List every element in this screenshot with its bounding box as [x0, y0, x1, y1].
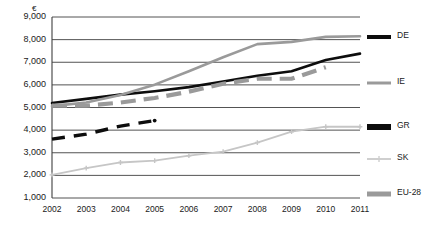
y-axis-tick-label: 7,000	[6, 57, 46, 66]
x-axis-tick-label: 2002	[35, 204, 69, 214]
y-axis-tick-label: 2,000	[6, 170, 46, 179]
legend-label-ie: IE	[397, 76, 405, 86]
data-point-marker	[186, 153, 191, 158]
x-axis-tick-label: 2006	[172, 204, 206, 214]
data-point-marker	[50, 173, 55, 178]
series-endpoint-gr	[153, 119, 157, 123]
legend-label-gr: GR	[397, 120, 410, 130]
chart-legend: DEIEGRSKEU-28	[366, 17, 434, 198]
series-line-sk	[52, 127, 360, 175]
y-axis-tick-label: 6,000	[6, 80, 46, 89]
legend-item-ie[interactable]: IE	[366, 74, 434, 88]
y-axis-tick-label: 3,000	[6, 148, 46, 157]
line-chart: € 9,0008,0007,0006,0005,0004,0003,0002,0…	[0, 0, 434, 238]
series-line-de	[52, 54, 360, 103]
legend-item-gr[interactable]: GR	[366, 118, 434, 132]
x-axis-tick-label: 2009	[275, 204, 309, 214]
legend-item-sk[interactable]: SK	[366, 150, 434, 164]
data-point-marker	[323, 124, 328, 129]
legend-label-sk: SK	[397, 152, 408, 162]
data-point-marker	[84, 166, 89, 171]
x-axis-tick-label: 2004	[103, 204, 137, 214]
y-axis-tick-label: 9,000	[6, 12, 46, 21]
x-axis-tick-label: 2008	[240, 204, 274, 214]
data-point-marker	[221, 149, 226, 154]
legend-item-de[interactable]: DE	[366, 28, 434, 42]
y-axis-tick-label: 5,000	[6, 103, 46, 112]
y-axis-tick-label: 1,000	[6, 193, 46, 202]
legend-swatch-eu-28	[366, 186, 392, 198]
data-point-marker	[118, 160, 123, 165]
legend-swatch-de	[366, 29, 392, 41]
legend-label-de: DE	[397, 30, 409, 40]
x-axis-tick-label: 2007	[206, 204, 240, 214]
x-axis-tick-label: 2003	[69, 204, 103, 214]
x-axis-tick-label: 2005	[138, 204, 172, 214]
legend-swatch-ie	[366, 75, 392, 87]
x-axis-tick-label: 2010	[309, 204, 343, 214]
data-point-marker	[152, 158, 157, 163]
plot-area	[52, 17, 360, 198]
gridlines	[52, 17, 360, 198]
legend-swatch-gr	[366, 119, 392, 131]
data-point-marker	[358, 124, 363, 129]
x-axis-tick-label: 2011	[343, 204, 377, 214]
y-axis-tick-label: 8,000	[6, 35, 46, 44]
series-lines	[50, 36, 363, 177]
legend-label-eu-28: EU-28	[397, 187, 421, 197]
data-point-marker	[255, 140, 260, 145]
legend-swatch-sk	[366, 151, 392, 163]
legend-item-eu-28[interactable]: EU-28	[366, 185, 434, 199]
plot-svg	[52, 17, 360, 198]
y-axis-tick-label: 4,000	[6, 125, 46, 134]
